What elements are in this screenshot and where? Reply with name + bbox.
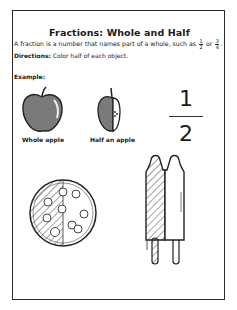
big-denominator: 2 xyxy=(166,123,206,145)
directions: Directions: Color half of each object. xyxy=(14,52,128,59)
whole-apple-label: Whole apple xyxy=(22,136,64,143)
inline-fraction-three-quarters: 3 4 xyxy=(215,39,219,50)
denominator: 2 xyxy=(199,45,203,50)
description-suffix: . xyxy=(220,40,222,47)
description-prefix: A fraction is a number that names part o… xyxy=(14,40,196,47)
pizza-icon[interactable] xyxy=(28,178,98,248)
inline-fraction-half: 1 2 xyxy=(199,39,203,50)
big-fraction-bar xyxy=(169,116,203,117)
big-numerator: 1 xyxy=(166,88,206,110)
big-fraction-one-half: 1 2 xyxy=(166,88,206,145)
example-label: Example: xyxy=(14,73,45,80)
worksheet-title: Fractions: Whole and Half xyxy=(12,27,227,38)
description-connector: or xyxy=(206,40,212,47)
half-apple-label: Half an apple xyxy=(90,136,135,143)
popsicle-icon[interactable] xyxy=(143,152,189,268)
directions-text: Color half of each object. xyxy=(53,52,128,59)
denominator: 4 xyxy=(215,45,219,50)
half-apple-icon xyxy=(96,86,126,134)
directions-label: Directions: xyxy=(14,52,51,59)
whole-apple-icon xyxy=(20,86,66,134)
description-text: A fraction is a number that names part o… xyxy=(14,39,222,50)
